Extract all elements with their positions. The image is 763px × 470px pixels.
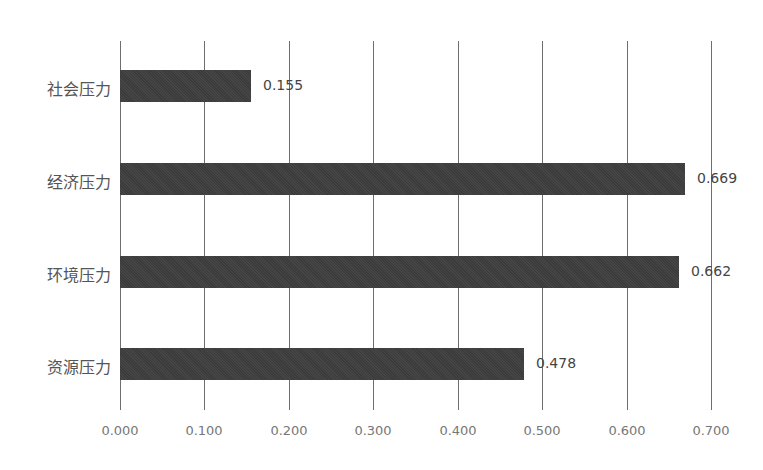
x-tick-label: 0.100 xyxy=(174,423,234,438)
x-tick-label: 0.700 xyxy=(681,423,741,438)
category-label: 社会压力 xyxy=(1,76,111,100)
x-tick-label: 0.200 xyxy=(259,423,319,438)
gridline xyxy=(627,41,628,410)
category-label: 环境压力 xyxy=(1,262,111,286)
value-label: 0.155 xyxy=(263,77,303,93)
x-tick-label: 0.000 xyxy=(90,423,150,438)
category-label: 资源压力 xyxy=(1,354,111,378)
value-label: 0.669 xyxy=(697,170,737,186)
bar-chart: 0.0000.1000.2000.3000.4000.5000.6000.700… xyxy=(0,0,763,470)
value-label: 0.478 xyxy=(536,355,576,371)
value-label: 0.662 xyxy=(691,263,731,279)
x-tick-label: 0.500 xyxy=(512,423,572,438)
x-tick-label: 0.300 xyxy=(343,423,403,438)
bar xyxy=(120,70,251,102)
category-label: 经济压力 xyxy=(1,169,111,193)
bar xyxy=(120,256,679,288)
gridline xyxy=(711,41,712,410)
x-tick-label: 0.400 xyxy=(428,423,488,438)
bar xyxy=(120,163,685,195)
bar xyxy=(120,348,524,380)
x-tick-label: 0.600 xyxy=(597,423,657,438)
